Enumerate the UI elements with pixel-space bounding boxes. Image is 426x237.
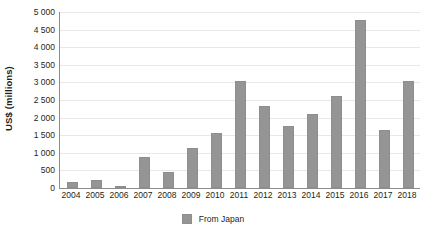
y-axis-title: US$ (millions): [0, 0, 16, 196]
y-axis-tick-label: 2 000: [34, 113, 55, 122]
bar-slot: [252, 12, 276, 188]
bar: [331, 96, 342, 188]
x-axis-tick-label: 2013: [275, 191, 299, 200]
bar-series-from-japan: [60, 12, 420, 188]
bar-slot: [300, 12, 324, 188]
x-axis-tick-label: 2009: [179, 191, 203, 200]
y-axis-tick-labels: 05001 0001 5002 0002 5003 0003 5004 0004…: [16, 8, 58, 192]
bar-slot: [228, 12, 252, 188]
bar-slot: [372, 12, 396, 188]
y-axis-tick-label: 1 000: [34, 149, 55, 158]
bar-slot: [324, 12, 348, 188]
legend-label: From Japan: [199, 215, 244, 224]
bar: [355, 20, 366, 188]
legend-swatch: [182, 214, 192, 224]
bar: [235, 81, 246, 188]
bar-slot: [396, 12, 420, 188]
bar-slot: [60, 12, 84, 188]
gridline: [60, 188, 420, 189]
x-axis-tick-label: 2015: [323, 191, 347, 200]
bar: [403, 81, 414, 188]
y-axis-tick-label: 0: [50, 184, 55, 193]
x-axis-tick-label: 2006: [107, 191, 131, 200]
bar: [379, 130, 390, 188]
bar-slot: [180, 12, 204, 188]
bar-slot: [276, 12, 300, 188]
bar: [307, 114, 318, 188]
x-axis-tick-label: 2017: [371, 191, 395, 200]
chart-legend: From Japan: [0, 214, 426, 224]
x-axis-tick-label: 2010: [203, 191, 227, 200]
bar: [91, 180, 102, 188]
x-axis-tick-label: 2011: [227, 191, 251, 200]
y-axis-tick-label: 3 500: [34, 61, 55, 70]
x-axis-tick-label: 2012: [251, 191, 275, 200]
bar: [67, 182, 78, 188]
bar: [187, 148, 198, 188]
bar-slot: [204, 12, 228, 188]
bar-slot: [132, 12, 156, 188]
x-axis-tick-labels: 2004200520062007200820092010201120122013…: [59, 191, 419, 207]
y-axis-tick-label: 5 000: [34, 8, 55, 17]
y-axis-tick-label: 4 000: [34, 43, 55, 52]
bar: [163, 172, 174, 188]
x-axis-tick-label: 2004: [59, 191, 83, 200]
y-axis-tick-label: 4 500: [34, 25, 55, 34]
bar-slot: [348, 12, 372, 188]
x-axis-tick-label: 2014: [299, 191, 323, 200]
bar: [283, 126, 294, 188]
bar: [139, 157, 150, 188]
bar: [211, 133, 222, 188]
bar: [259, 106, 270, 188]
bar: [115, 186, 126, 188]
x-axis-tick-label: 2008: [155, 191, 179, 200]
bar-slot: [84, 12, 108, 188]
x-axis-tick-label: 2018: [395, 191, 419, 200]
x-axis-tick-label: 2007: [131, 191, 155, 200]
y-axis-title-text: US$ (millions): [3, 66, 14, 131]
y-axis-tick-label: 1 500: [34, 131, 55, 140]
bar-slot: [108, 12, 132, 188]
bar-chart: US$ (millions) 05001 0001 5002 0002 5003…: [0, 0, 426, 237]
y-axis-tick-label: 2 500: [34, 96, 55, 105]
plot-area: [59, 12, 420, 189]
x-axis-tick-label: 2016: [347, 191, 371, 200]
y-axis-tick-label: 500: [41, 166, 55, 175]
bar-slot: [156, 12, 180, 188]
y-axis-tick-label: 3 000: [34, 78, 55, 87]
x-axis-tick-label: 2005: [83, 191, 107, 200]
